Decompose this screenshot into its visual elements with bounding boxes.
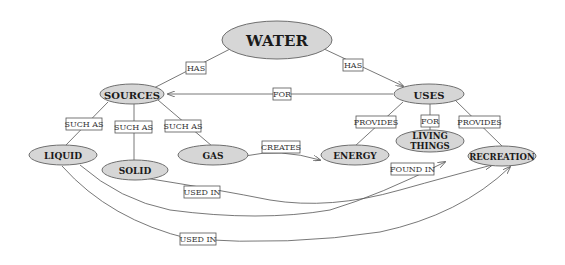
node-water[interactable]: WATER xyxy=(222,21,332,59)
svg-text:PROVIDES: PROVIDES xyxy=(457,118,502,127)
svg-text:ENERGY: ENERGY xyxy=(333,151,377,161)
svg-text:SUCH AS: SUCH AS xyxy=(64,120,103,129)
label-liquid-recreation: USED IN xyxy=(179,233,216,245)
svg-text:RECREATION: RECREATION xyxy=(469,152,535,162)
nodes: WATER SOURCES USES LIQUID SOLID GAS ENER… xyxy=(29,21,536,180)
svg-text:WATER: WATER xyxy=(245,32,308,50)
node-recreation[interactable]: RECREATION xyxy=(468,146,536,166)
node-gas[interactable]: GAS xyxy=(178,145,248,165)
svg-text:LIQUID: LIQUID xyxy=(44,151,82,161)
svg-text:SOURCES: SOURCES xyxy=(104,90,160,101)
svg-text:LIVING: LIVING xyxy=(412,131,448,141)
node-uses[interactable]: USES xyxy=(394,84,464,104)
label-solid-recreation: USED IN xyxy=(183,186,220,198)
svg-text:CREATES: CREATES xyxy=(261,143,301,152)
svg-text:GAS: GAS xyxy=(202,151,223,161)
svg-text:HAS: HAS xyxy=(187,64,205,73)
svg-text:SOLID: SOLID xyxy=(119,166,152,176)
label-water-uses: HAS xyxy=(343,59,363,71)
svg-text:USES: USES xyxy=(414,90,445,101)
edge-gas-energy xyxy=(245,153,320,160)
node-living-things[interactable]: LIVING THINGS xyxy=(396,130,464,152)
node-sources[interactable]: SOURCES xyxy=(100,84,164,104)
svg-text:PROVIDES: PROVIDES xyxy=(354,118,399,127)
label-uses-recreation: PROVIDES xyxy=(457,116,502,128)
label-sources-gas: SUCH AS xyxy=(163,120,202,132)
svg-text:HAS: HAS xyxy=(344,61,362,70)
svg-text:FOR: FOR xyxy=(273,90,292,99)
svg-text:SUCH AS: SUCH AS xyxy=(163,122,202,131)
label-water-sources: HAS xyxy=(186,62,206,74)
svg-text:USED IN: USED IN xyxy=(183,188,220,197)
label-gas-energy: CREATES xyxy=(261,141,301,153)
svg-text:SUCH AS: SUCH AS xyxy=(114,123,153,132)
label-uses-sources: FOR xyxy=(273,88,292,100)
svg-text:THINGS: THINGS xyxy=(410,141,450,151)
concept-map: HAS HAS FOR SUCH AS SUCH AS SUCH AS CREA… xyxy=(0,0,565,265)
label-uses-energy: PROVIDES xyxy=(354,116,399,128)
label-sources-liquid: SUCH AS xyxy=(64,118,103,130)
svg-text:FOUND IN: FOUND IN xyxy=(390,165,435,174)
node-liquid[interactable]: LIQUID xyxy=(29,145,97,165)
label-sources-solid: SUCH AS xyxy=(114,121,153,133)
label-liquid-living: FOUND IN xyxy=(390,163,435,175)
node-energy[interactable]: ENERGY xyxy=(321,145,389,165)
node-solid[interactable]: SOLID xyxy=(102,160,168,180)
svg-text:USED IN: USED IN xyxy=(179,235,216,244)
label-uses-living: FOR xyxy=(421,115,440,127)
svg-text:FOR: FOR xyxy=(421,117,440,126)
